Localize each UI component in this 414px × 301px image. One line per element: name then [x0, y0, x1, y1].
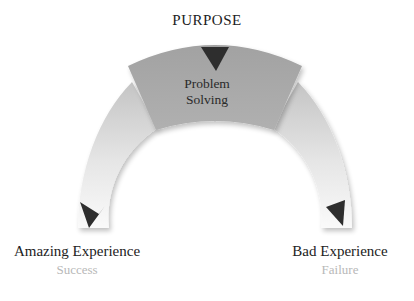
center-label: Problem Solving: [165, 76, 249, 108]
center-label-line1: Problem: [165, 76, 249, 92]
center-label-line2: Solving: [165, 92, 249, 108]
purpose-label: PURPOSE: [157, 12, 257, 29]
right-outcome-title: Bad Experience: [270, 243, 410, 260]
left-outcome-subtitle: Success: [2, 262, 152, 278]
right-outcome-subtitle: Failure: [270, 262, 410, 278]
left-outcome-title: Amazing Experience: [2, 243, 152, 260]
